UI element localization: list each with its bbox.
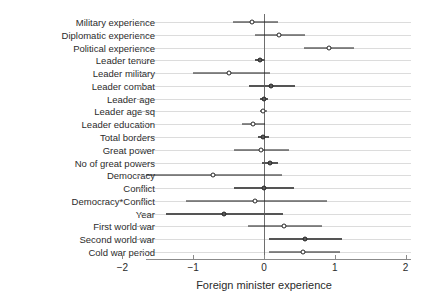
axis-tick-stub bbox=[137, 214, 146, 215]
coefficient-plot: Military experienceDiplomatic experience… bbox=[0, 0, 423, 302]
axis-tick-stub bbox=[137, 252, 146, 253]
x-axis-tick-label: 0 bbox=[261, 262, 267, 274]
gridline bbox=[146, 99, 411, 100]
point-estimate-marker bbox=[257, 58, 262, 63]
axis-tick-stub bbox=[137, 48, 146, 49]
point-estimate-marker bbox=[261, 135, 266, 140]
plot-area: Military experienceDiplomatic experience… bbox=[0, 0, 423, 302]
gridline bbox=[146, 137, 411, 138]
gridline bbox=[146, 124, 411, 125]
point-estimate-marker bbox=[281, 224, 286, 229]
axis-tick-stub bbox=[137, 163, 146, 164]
gridline bbox=[146, 60, 411, 61]
confidence-interval-bar bbox=[233, 22, 278, 23]
x-axis-tick bbox=[264, 255, 265, 259]
x-axis-title: Foreign minister experience bbox=[196, 279, 332, 292]
axis-tick-stub bbox=[137, 150, 146, 151]
point-estimate-marker bbox=[269, 83, 274, 88]
point-estimate-marker bbox=[327, 45, 332, 50]
category-label: Leader tenure bbox=[96, 55, 155, 66]
point-estimate-marker bbox=[211, 173, 216, 178]
x-axis-line bbox=[146, 259, 411, 260]
point-estimate-marker bbox=[259, 147, 264, 152]
axis-tick-stub bbox=[137, 60, 146, 61]
point-estimate-marker bbox=[227, 71, 232, 76]
axis-tick-stub bbox=[137, 239, 146, 240]
point-estimate-marker bbox=[303, 237, 308, 242]
point-estimate-marker bbox=[300, 250, 305, 255]
axis-tick-stub bbox=[137, 86, 146, 87]
point-estimate-marker bbox=[261, 109, 266, 114]
point-estimate-marker bbox=[251, 122, 256, 127]
axis-tick-stub bbox=[137, 201, 146, 202]
x-axis-tick bbox=[406, 255, 407, 259]
point-estimate-marker bbox=[249, 20, 254, 25]
gridline bbox=[146, 111, 411, 112]
point-estimate-marker bbox=[252, 198, 257, 203]
axis-tick-stub bbox=[137, 188, 146, 189]
point-estimate-marker bbox=[267, 160, 272, 165]
point-estimate-marker bbox=[262, 96, 267, 101]
x-axis-tick-label: −1 bbox=[187, 262, 198, 274]
category-label: Leader age bbox=[107, 93, 155, 104]
x-axis-tick bbox=[122, 255, 123, 259]
gridline bbox=[146, 163, 411, 164]
axis-tick-stub bbox=[137, 226, 146, 227]
axis-tick-stub bbox=[137, 22, 146, 23]
x-axis-tick bbox=[335, 255, 336, 259]
axis-tick-stub bbox=[137, 124, 146, 125]
x-axis-tick-label: −2 bbox=[117, 262, 128, 274]
gridline bbox=[146, 73, 411, 74]
gridline bbox=[146, 48, 411, 49]
axis-tick-stub bbox=[137, 99, 146, 100]
axis-tick-stub bbox=[137, 111, 146, 112]
category-label: Total borders bbox=[100, 132, 155, 143]
x-axis-tick-label: 1 bbox=[332, 262, 338, 274]
point-estimate-marker bbox=[262, 186, 267, 191]
axis-tick-stub bbox=[137, 175, 146, 176]
x-axis-tick-label: 2 bbox=[403, 262, 409, 274]
axis-tick-stub bbox=[137, 35, 146, 36]
axis-tick-stub bbox=[137, 137, 146, 138]
gridline bbox=[146, 22, 411, 23]
point-estimate-marker bbox=[222, 211, 227, 216]
point-estimate-marker bbox=[276, 32, 281, 37]
x-axis-tick bbox=[193, 255, 194, 259]
category-label: Great power bbox=[103, 144, 155, 155]
axis-tick-stub bbox=[137, 73, 146, 74]
